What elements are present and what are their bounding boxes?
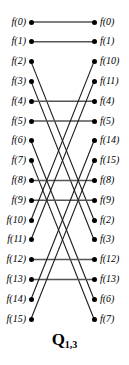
input-label-0: f(0) — [0, 17, 26, 27]
output-node-11 — [92, 237, 97, 242]
input-label-10: f(10) — [0, 215, 26, 225]
output-label-12: f(12) — [100, 254, 129, 264]
input-node-4 — [29, 99, 34, 104]
input-node-8 — [29, 178, 34, 183]
output-node-12 — [92, 257, 97, 262]
input-label-2: f(2) — [0, 56, 26, 66]
input-node-1 — [29, 39, 34, 44]
output-node-10 — [92, 218, 97, 223]
input-node-0 — [29, 20, 34, 25]
output-label-0: f(0) — [100, 17, 129, 27]
input-node-9 — [29, 198, 34, 203]
caption-symbol: Q — [52, 330, 65, 349]
caption-subscript: 1,3 — [65, 339, 78, 350]
output-node-13 — [92, 277, 97, 282]
output-node-14 — [92, 297, 97, 302]
input-node-13 — [29, 277, 34, 282]
output-node-4 — [92, 99, 97, 104]
input-node-12 — [29, 257, 34, 262]
output-node-6 — [92, 138, 97, 143]
output-node-9 — [92, 198, 97, 203]
input-node-7 — [29, 158, 34, 163]
input-label-11: f(11) — [0, 234, 26, 244]
input-node-15 — [29, 317, 34, 322]
output-node-7 — [92, 158, 97, 163]
output-label-6: f(14) — [100, 135, 129, 145]
input-node-10 — [29, 218, 34, 223]
input-node-6 — [29, 138, 34, 143]
output-node-5 — [92, 119, 97, 124]
input-label-12: f(12) — [0, 254, 26, 264]
input-node-14 — [29, 297, 34, 302]
input-label-15: f(15) — [0, 314, 26, 324]
output-node-2 — [92, 59, 97, 64]
output-node-0 — [92, 20, 97, 25]
input-label-6: f(6) — [0, 135, 26, 145]
input-node-5 — [29, 119, 34, 124]
input-label-1: f(1) — [0, 36, 26, 46]
input-label-8: f(8) — [0, 175, 26, 185]
output-label-8: f(8) — [100, 175, 129, 185]
input-label-4: f(4) — [0, 96, 26, 106]
input-label-14: f(14) — [0, 294, 26, 304]
input-node-11 — [29, 237, 34, 242]
input-label-3: f(3) — [0, 76, 26, 86]
output-label-5: f(5) — [100, 116, 129, 126]
input-label-5: f(5) — [0, 116, 26, 126]
output-label-14: f(6) — [100, 294, 129, 304]
output-node-15 — [92, 317, 97, 322]
input-label-7: f(7) — [0, 155, 26, 165]
output-node-3 — [92, 79, 97, 84]
input-node-3 — [29, 79, 34, 84]
output-label-9: f(9) — [100, 195, 129, 205]
output-label-7: f(15) — [100, 155, 129, 165]
figure-caption: Q1,3 — [0, 330, 129, 350]
output-label-4: f(4) — [100, 96, 129, 106]
input-label-13: f(13) — [0, 274, 26, 284]
output-node-1 — [92, 39, 97, 44]
output-node-8 — [92, 178, 97, 183]
output-label-13: f(13) — [100, 274, 129, 284]
input-node-2 — [29, 59, 34, 64]
output-label-3: f(11) — [100, 76, 129, 86]
permutation-network-figure: f(0)f(1)f(2)f(3)f(4)f(5)f(6)f(7)f(8)f(9)… — [0, 0, 129, 365]
output-label-11: f(3) — [100, 234, 129, 244]
output-label-15: f(7) — [100, 314, 129, 324]
output-label-2: f(10) — [100, 56, 129, 66]
output-label-1: f(1) — [100, 36, 129, 46]
input-label-9: f(9) — [0, 195, 26, 205]
output-label-10: f(2) — [100, 215, 129, 225]
